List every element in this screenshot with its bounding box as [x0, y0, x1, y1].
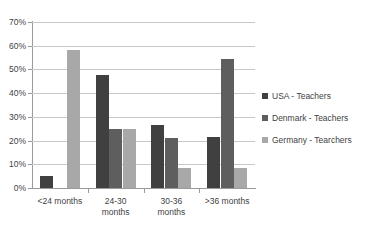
bar[interactable]: [109, 129, 122, 188]
y-tick-label: 0%: [0, 184, 26, 193]
y-tick-mark: [28, 93, 32, 94]
x-cat-label: 24-30months: [88, 196, 144, 218]
x-cat-label: <24 months: [38, 196, 83, 207]
y-tick-mark: [28, 188, 32, 189]
legend-label: USA - Teachers: [272, 92, 331, 101]
legend-item[interactable]: USA - Teachers: [262, 88, 387, 104]
x-cat-label: 30-36months: [144, 196, 200, 218]
legend-label: Germany - Tearchers: [272, 136, 352, 145]
x-axis-labels: <24 months24-30months30-36months>36 mont…: [32, 196, 255, 236]
y-tick-mark: [28, 164, 32, 165]
bar-group: [88, 22, 144, 188]
legend-item[interactable]: Denmark - Teachers: [262, 110, 387, 126]
legend-swatch-icon: [262, 93, 268, 99]
bar-group: [199, 22, 255, 188]
x-tick-mark: [199, 189, 200, 193]
legend-swatch-icon: [262, 115, 268, 121]
y-tick-label: 60%: [0, 42, 26, 51]
bar[interactable]: [151, 125, 164, 188]
y-tick-mark: [28, 141, 32, 142]
bar[interactable]: [40, 176, 53, 188]
bar[interactable]: [221, 59, 234, 188]
y-axis-labels: 0%10%20%30%40%50%60%70%: [0, 0, 26, 240]
bar[interactable]: [178, 168, 191, 188]
y-tick-label: 10%: [0, 160, 26, 169]
chart-legend: USA - TeachersDenmark - TeachersGermany …: [262, 88, 387, 154]
y-tick-mark: [28, 69, 32, 70]
x-cat-label-line2: months: [144, 207, 200, 218]
bar-group: [32, 22, 88, 188]
y-tick-label: 70%: [0, 18, 26, 27]
bar-group: [144, 22, 200, 188]
bar[interactable]: [165, 138, 178, 188]
x-tick-mark: [144, 189, 145, 193]
y-tick-label: 20%: [0, 137, 26, 146]
y-tick-mark: [28, 117, 32, 118]
bar[interactable]: [207, 137, 220, 188]
x-tick-mark: [88, 189, 89, 193]
y-tick-label: 40%: [0, 89, 26, 98]
y-tick-label: 30%: [0, 113, 26, 122]
bar-chart: 0%10%20%30%40%50%60%70% <24 months24-30m…: [0, 0, 389, 240]
plot-area: [32, 22, 255, 188]
bar[interactable]: [234, 168, 247, 188]
legend-item[interactable]: Germany - Tearchers: [262, 132, 387, 148]
x-cat-label: >36 months: [205, 196, 250, 207]
legend-label: Denmark - Teachers: [272, 114, 348, 123]
legend-swatch-icon: [262, 137, 268, 143]
y-tick-label: 50%: [0, 65, 26, 74]
bar[interactable]: [96, 75, 109, 188]
y-tick-mark: [28, 22, 32, 23]
bar[interactable]: [67, 50, 80, 188]
y-tick-mark: [28, 46, 32, 47]
bar[interactable]: [123, 129, 136, 188]
x-cat-label-line2: months: [88, 207, 144, 218]
